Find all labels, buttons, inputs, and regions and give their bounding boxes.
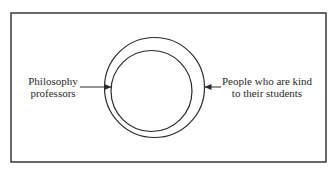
outer-circle-kind-people xyxy=(105,38,205,138)
label-right-line1: People who are kind xyxy=(222,75,312,87)
label-right-line2: to their students xyxy=(222,87,312,99)
label-kind-people: People who are kind to their students xyxy=(222,75,312,99)
label-left-line2: professors xyxy=(28,87,78,99)
inner-circle-philosophy-professors xyxy=(111,51,192,132)
label-left-line1: Philosophy xyxy=(28,75,78,87)
label-philosophy-professors: Philosophy professors xyxy=(28,75,78,99)
